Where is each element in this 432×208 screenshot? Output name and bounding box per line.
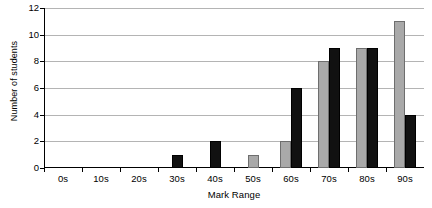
bar-group	[44, 8, 82, 168]
x-tick-label: 40s	[196, 174, 234, 184]
x-axis-title: Mark Range	[44, 189, 424, 200]
x-tick-label: 80s	[348, 174, 386, 184]
bar	[248, 155, 259, 168]
x-axis-category: 40s	[196, 168, 234, 188]
bar-group	[196, 8, 234, 168]
x-tick-mark	[234, 168, 235, 172]
bar-group	[82, 8, 120, 168]
bar	[367, 48, 378, 168]
x-tick-mark	[82, 168, 83, 172]
y-tick-mark-12	[40, 8, 44, 9]
bar-group	[272, 8, 310, 168]
x-axis-category: 60s	[272, 168, 310, 188]
bar-group	[234, 8, 272, 168]
bar-group	[348, 8, 386, 168]
y-tick-mark-6	[40, 88, 44, 89]
x-tick-label: 10s	[82, 174, 120, 184]
x-tick-mark	[120, 168, 121, 172]
x-tick-mark	[272, 168, 273, 172]
x-tick-mark	[44, 168, 45, 172]
y-tick-label: 10	[28, 30, 39, 40]
y-tick-label: 8	[34, 57, 39, 67]
bar-groups	[44, 8, 424, 168]
y-tick-label: 0	[34, 163, 39, 173]
y-tick-mark-10	[40, 35, 44, 36]
bar-group	[310, 8, 348, 168]
bar-chart: Number of students 024681012 0s10s20s30s…	[0, 0, 432, 208]
plot-area	[44, 8, 424, 168]
x-axis-category: 20s	[120, 168, 158, 188]
x-tick-label: 90s	[386, 174, 424, 184]
x-axis-category: 10s	[82, 168, 120, 188]
x-tick-mark	[348, 168, 349, 172]
x-axis-category: 30s	[158, 168, 196, 188]
bar-group	[386, 8, 424, 168]
x-tick-mark	[386, 168, 387, 172]
y-axis-tick-labels: 024681012	[18, 8, 42, 168]
x-tick-label: 50s	[234, 174, 272, 184]
bar-group	[158, 8, 196, 168]
x-axis-category: 70s	[310, 168, 348, 188]
bar	[291, 88, 302, 168]
bar	[280, 141, 291, 168]
y-tick-mark-8	[40, 61, 44, 62]
x-axis-category: 0s	[44, 168, 82, 188]
x-tick-label: 60s	[272, 174, 310, 184]
bar	[405, 115, 416, 168]
y-tick-label: 4	[34, 110, 39, 120]
x-tick-label: 30s	[158, 174, 196, 184]
y-tick-label: 2	[34, 137, 39, 147]
x-axis-category: 90s	[386, 168, 424, 188]
x-tick-mark	[310, 168, 311, 172]
bar	[172, 155, 183, 168]
x-tick-label: 70s	[310, 174, 348, 184]
y-tick-label: 12	[28, 3, 39, 13]
bar	[318, 61, 329, 168]
bar	[356, 48, 367, 168]
y-tick-mark-2	[40, 141, 44, 142]
x-tick-mark	[158, 168, 159, 172]
bar	[210, 141, 221, 168]
x-tick-label: 0s	[44, 174, 82, 184]
bar-group	[120, 8, 158, 168]
x-tick-label: 20s	[120, 174, 158, 184]
x-axis-category: 80s	[348, 168, 386, 188]
x-tick-mark	[196, 168, 197, 172]
bar	[394, 21, 405, 168]
bar	[329, 48, 340, 168]
x-axis-category: 50s	[234, 168, 272, 188]
y-tick-mark-4	[40, 115, 44, 116]
x-axis-tick-labels: 0s10s20s30s40s50s60s70s80s90s	[44, 168, 424, 188]
y-tick-label: 6	[34, 83, 39, 93]
